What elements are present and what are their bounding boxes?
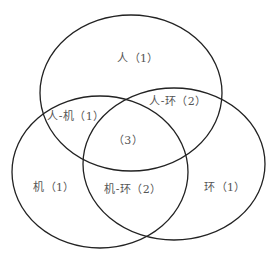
region-label-ren-only: 人（1） <box>117 49 159 65</box>
region-label-all-three: （3） <box>113 131 144 147</box>
region-label-ren-ji: 人-机（1） <box>47 107 105 123</box>
region-label-ji-only: 机（1） <box>33 178 75 194</box>
venn-diagram <box>0 0 276 258</box>
region-label-ji-huan: 机-环（2） <box>104 180 162 196</box>
set-ellipse-huan <box>83 88 265 240</box>
region-label-huan-only: 环（1） <box>204 178 246 194</box>
region-label-ren-huan: 人-环（2） <box>149 92 207 108</box>
